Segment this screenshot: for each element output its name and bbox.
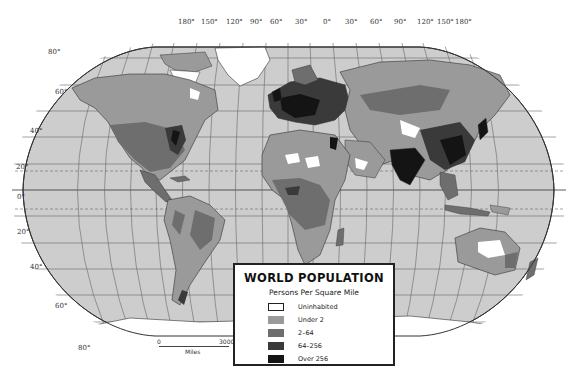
latitude-label: 40° bbox=[30, 127, 42, 135]
latitude-label: 20° bbox=[17, 228, 29, 236]
latitude-label: 80° bbox=[78, 344, 90, 352]
scale-line bbox=[159, 346, 229, 347]
legend: WORLD POPULATION Persons Per Square Mile… bbox=[233, 263, 395, 366]
latitude-label: 60° bbox=[55, 302, 67, 310]
legend-label: 64–256 bbox=[298, 342, 322, 350]
latitude-label: 60° bbox=[55, 88, 67, 96]
legend-swatch-under-2 bbox=[268, 316, 284, 324]
longitude-label: 180° bbox=[455, 18, 472, 26]
longitude-label: 90° bbox=[250, 18, 262, 26]
longitude-label: 90° bbox=[394, 18, 406, 26]
longitude-label: 180° bbox=[178, 18, 195, 26]
legend-label: Over 256 bbox=[298, 355, 328, 363]
scale-start: 0 bbox=[157, 338, 161, 345]
legend-label: 2–64 bbox=[298, 329, 314, 337]
legend-item: 2–64 bbox=[268, 326, 393, 339]
legend-title: WORLD POPULATION bbox=[235, 271, 393, 285]
legend-label: Uninhabited bbox=[298, 303, 338, 311]
latitude-label: 20° bbox=[16, 163, 28, 171]
legend-item: Under 2 bbox=[268, 313, 393, 326]
longitude-label: 60° bbox=[370, 18, 382, 26]
legend-label: Under 2 bbox=[298, 316, 324, 324]
legend-swatch-2-64 bbox=[268, 329, 284, 337]
legend-item: 64–256 bbox=[268, 339, 393, 352]
legend-swatch-64-256 bbox=[268, 342, 284, 350]
longitude-label: 0° bbox=[323, 18, 331, 26]
latitude-label: 0° bbox=[17, 193, 25, 201]
latitude-label: 80° bbox=[48, 48, 60, 56]
longitude-label: 150° bbox=[437, 18, 454, 26]
longitude-label: 30° bbox=[345, 18, 357, 26]
scale-end: 3000 bbox=[219, 338, 234, 345]
legend-swatch-uninhabited bbox=[268, 303, 284, 311]
longitude-label: 120° bbox=[417, 18, 434, 26]
legend-subtitle: Persons Per Square Mile bbox=[235, 288, 393, 297]
legend-item: Uninhabited bbox=[268, 300, 393, 313]
longitude-label: 30° bbox=[295, 18, 307, 26]
longitude-label: 120° bbox=[226, 18, 243, 26]
legend-item: Over 256 bbox=[268, 352, 393, 365]
scale-unit: Miles bbox=[185, 348, 200, 355]
longitude-label: 60° bbox=[270, 18, 282, 26]
longitude-label: 150° bbox=[201, 18, 218, 26]
latitude-label: 40° bbox=[30, 263, 42, 271]
scale-bar: 0 3000 Miles bbox=[155, 338, 235, 358]
legend-swatch-over-256 bbox=[268, 355, 284, 363]
